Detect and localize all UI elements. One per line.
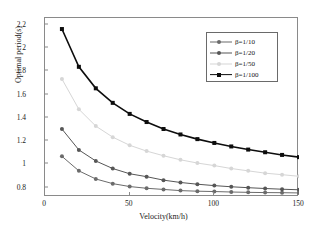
y-tick-mark: [44, 93, 48, 94]
legend-line: [210, 74, 232, 76]
legend-label: β=1/20: [235, 49, 255, 57]
legend-label: β=1/100: [235, 71, 258, 79]
x-tick-label: 100: [208, 199, 219, 208]
x-axis-label: Velocity(km/h): [0, 212, 327, 221]
legend-marker-icon: [217, 51, 221, 55]
data-point: [60, 27, 64, 31]
legend[interactable]: β=1/10β=1/20β=1/50β=1/100: [206, 32, 278, 82]
legend-line: [210, 63, 232, 64]
data-point: [280, 153, 284, 157]
data-point: [111, 167, 115, 171]
data-point: [162, 178, 166, 182]
data-point: [145, 175, 149, 179]
y-tick-label: 1.2: [0, 136, 26, 145]
data-point: [195, 161, 199, 165]
data-point: [280, 187, 284, 191]
data-point: [145, 149, 149, 153]
legend-item-1[interactable]: β=1/10: [210, 36, 274, 47]
data-point: [145, 186, 149, 190]
data-point: [60, 154, 64, 158]
data-point: [280, 191, 284, 195]
data-point: [94, 177, 98, 181]
x-tick-label: 0: [42, 199, 46, 208]
x-tick-label: 150: [292, 199, 303, 208]
data-point: [145, 120, 149, 124]
y-tick-mark: [44, 47, 48, 48]
data-point: [77, 148, 81, 152]
legend-item-3[interactable]: β=1/50: [210, 58, 274, 69]
data-point: [128, 112, 132, 116]
data-point: [297, 155, 299, 159]
x-tick-mark: [213, 192, 214, 196]
data-point: [94, 124, 98, 128]
data-point: [212, 184, 216, 188]
y-tick-label: 1: [0, 159, 26, 168]
data-point: [297, 188, 299, 192]
legend-swatch-icon: [210, 48, 232, 58]
data-point: [246, 169, 250, 173]
data-point: [128, 185, 132, 189]
data-point: [178, 180, 182, 184]
y-tick-label: 1.4: [0, 112, 26, 121]
y-tick-label: 0.8: [0, 182, 26, 191]
data-point: [229, 144, 233, 148]
data-point: [77, 169, 81, 173]
legend-marker-icon: [217, 62, 221, 66]
data-point: [263, 191, 267, 195]
y-tick-mark: [44, 23, 48, 24]
data-point: [212, 141, 216, 145]
data-point: [94, 159, 98, 163]
data-point: [297, 174, 299, 178]
data-point: [263, 187, 267, 191]
y-tick-label: 2: [0, 43, 26, 52]
y-tick-mark: [44, 116, 48, 117]
data-point: [111, 101, 115, 105]
data-point: [60, 77, 64, 81]
data-point: [195, 182, 199, 186]
legend-line: [210, 52, 232, 53]
y-tick-mark: [44, 163, 48, 164]
data-point: [178, 189, 182, 193]
y-tick-label: 1.6: [0, 89, 26, 98]
data-point: [94, 86, 98, 90]
data-point: [162, 127, 166, 131]
data-point: [246, 148, 250, 152]
legend-item-4[interactable]: β=1/100: [210, 69, 274, 80]
data-point: [111, 182, 115, 186]
y-tick-mark: [44, 70, 48, 71]
legend-item-2[interactable]: β=1/20: [210, 47, 274, 58]
data-point: [195, 137, 199, 141]
data-point: [77, 65, 81, 69]
data-point: [263, 150, 267, 154]
y-tick-mark: [44, 140, 48, 141]
figure: Optimal period(s) Velocity(km/h) β=1/10β…: [0, 0, 327, 242]
x-tick-label: 50: [125, 199, 133, 208]
legend-swatch-icon: [210, 59, 232, 69]
data-point: [246, 186, 250, 190]
legend-line: [210, 41, 232, 42]
data-point: [246, 190, 250, 194]
data-point: [229, 185, 233, 189]
y-tick-label: 1.8: [0, 66, 26, 75]
legend-marker-icon: [217, 40, 221, 44]
legend-label: β=1/10: [235, 38, 255, 46]
data-point: [178, 132, 182, 136]
data-point: [229, 167, 233, 171]
data-point: [162, 187, 166, 191]
data-point: [229, 190, 233, 194]
data-point: [77, 107, 81, 111]
data-point: [178, 158, 182, 162]
data-point: [128, 172, 132, 176]
y-tick-mark: [44, 186, 48, 187]
data-point: [128, 143, 132, 147]
data-point: [111, 135, 115, 139]
data-point: [162, 154, 166, 158]
legend-label: β=1/50: [235, 60, 255, 68]
legend-marker-icon: [217, 73, 221, 77]
data-point: [195, 189, 199, 193]
legend-swatch-icon: [210, 70, 232, 80]
legend-swatch-icon: [210, 37, 232, 47]
data-point: [280, 173, 284, 177]
data-point: [60, 127, 64, 131]
y-tick-label: 2.2: [0, 19, 26, 28]
